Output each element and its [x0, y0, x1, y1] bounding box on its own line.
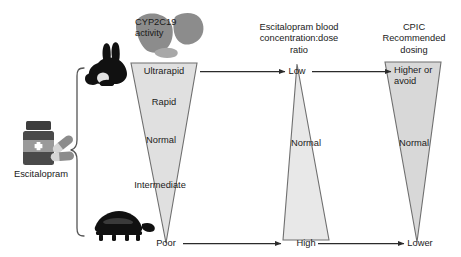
heading-cpic-dosing: CPIC Recommended dosing	[368, 22, 460, 56]
drug-label: Escitalopram	[0, 168, 82, 179]
triangle-cpic-dosing	[385, 62, 441, 242]
triangle1-label-rapid: Rapid	[124, 97, 204, 108]
triangle1-label-ultrarapid: Ultrarapid	[124, 66, 204, 77]
triangle3-label-lower: Lower	[389, 238, 451, 249]
heading-blood-concentration: Escitalopram blood concentration:dose ra…	[240, 22, 358, 56]
triangle-blood-concentration	[283, 64, 329, 240]
rabbit-icon	[85, 42, 127, 86]
turtle-icon	[95, 211, 155, 241]
triangle3-label-normal: Normal	[383, 138, 445, 149]
triangle1-label-normal: Normal	[121, 135, 201, 146]
pill-bottle-icon	[23, 121, 54, 165]
triangle1-label-intermediate: Intermediate	[113, 180, 207, 191]
triangle2-label-high: High	[275, 238, 337, 249]
triangle2-label-low: Low	[266, 66, 328, 77]
heading-cyp2c19-activity: CYP2C19 activity	[135, 17, 205, 39]
brace-connector	[71, 68, 84, 236]
triangle3-label-higher-or-avoid: Higher or avoid	[394, 65, 456, 87]
figure-canvas: CYP2C19 activity Escitalopram blood conc…	[0, 0, 461, 257]
capsule-icon	[50, 134, 74, 162]
triangle1-label-poor: Poor	[126, 238, 206, 249]
triangle2-label-normal: Normal	[275, 138, 337, 149]
triangle-cyp2c19-activity	[131, 63, 197, 243]
